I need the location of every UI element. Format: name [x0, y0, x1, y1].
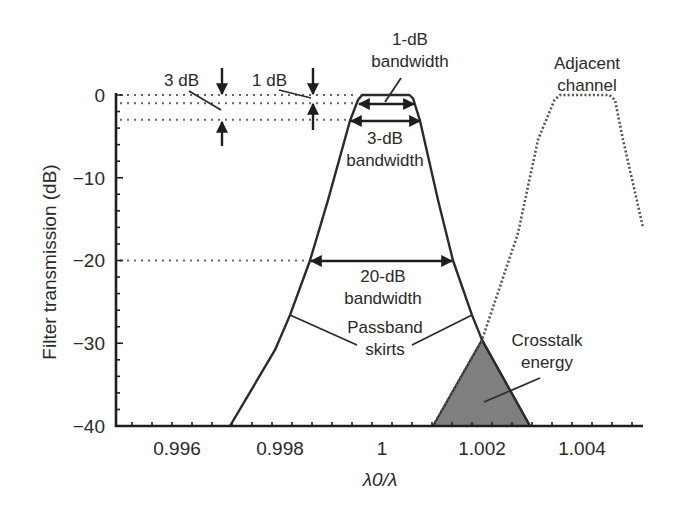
leader-line [385, 78, 401, 102]
adjacent-label-line1: Adjacent [554, 54, 620, 73]
x-axis-title: λ0/λ [362, 469, 398, 490]
passband-skirts-annotation: Passband skirts [290, 315, 472, 359]
x-tick-label: 1.004 [558, 438, 606, 459]
x-tick-label: 1 [377, 438, 388, 459]
three-db-marker: 3 dB [164, 68, 222, 146]
y-tick-label: 0 [94, 85, 105, 106]
x-tick-labels: 0.996 0.998 1 1.002 1.004 [153, 438, 606, 459]
twenty-db-bandwidth: 20-dB bandwidth [311, 261, 452, 308]
adjacent-channel-annotation: Adjacent channel [554, 54, 620, 95]
leader-line [189, 91, 221, 110]
filter-transmission-chart: 0 −10 −20 −30 −40 0.996 0.998 1 1.002 1.… [0, 0, 679, 510]
one-db-bw-label-line2: bandwidth [371, 52, 449, 71]
three-db-bw-label-line1: 3-dB [367, 129, 403, 148]
y-axis-title: Filter transmission (dB) [39, 164, 60, 359]
three-db-bandwidth: 3-dB bandwidth [346, 121, 424, 170]
adjacent-label-line2: channel [557, 76, 617, 95]
crosstalk-energy-region [433, 340, 530, 426]
passband-label-line2: skirts [365, 340, 405, 359]
x-tick-label: 0.998 [256, 438, 304, 459]
y-tick-label: −30 [73, 333, 105, 354]
crosstalk-label-line1: Crosstalk [512, 331, 583, 350]
three-db-label: 3 dB [164, 71, 199, 90]
reference-dotted-lines [120, 95, 358, 261]
one-db-bandwidth: 1-dB bandwidth [359, 30, 449, 104]
passband-label-line1: Passband [347, 318, 423, 337]
twenty-db-bw-label-line1: 20-dB [360, 267, 405, 286]
x-tick-label: 1.002 [458, 438, 506, 459]
three-db-bw-label-line2: bandwidth [346, 151, 424, 170]
twenty-db-bw-label-line2: bandwidth [344, 289, 422, 308]
one-db-label: 1 dB [252, 71, 287, 90]
y-tick-label: −20 [73, 250, 105, 271]
y-tick-labels: 0 −10 −20 −30 −40 [73, 85, 105, 437]
leader-line [279, 90, 311, 98]
crosstalk-label-line2: energy [521, 353, 573, 372]
one-db-bw-label-line1: 1-dB [392, 30, 428, 49]
y-tick-label: −40 [73, 416, 105, 437]
y-tick-label: −10 [73, 168, 105, 189]
x-tick-label: 0.996 [153, 438, 201, 459]
